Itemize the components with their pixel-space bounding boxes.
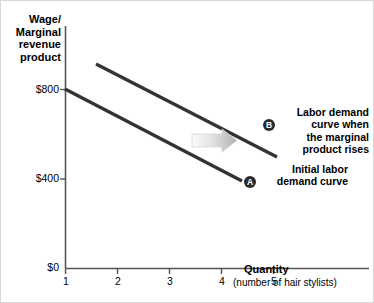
callout-a-text: Initial labor demand curve bbox=[260, 163, 348, 188]
demand-curve-b bbox=[96, 64, 277, 157]
x-tick-label-4: 4 bbox=[214, 275, 230, 287]
callout-b-text: Labor demand curve when the marginal pro… bbox=[277, 106, 369, 156]
x-tick-label-3: 3 bbox=[162, 275, 178, 287]
x-tick-label-1: 1 bbox=[58, 275, 74, 287]
y-axis-title: Wage/ Marginal revenue product bbox=[7, 13, 61, 63]
callout-curve-b: B Labor demand curve when the marginal p… bbox=[263, 118, 371, 156]
badge-a: A bbox=[244, 176, 256, 188]
y-tick-label-400: $400 bbox=[17, 172, 59, 184]
y-tick-label-0: $0 bbox=[17, 261, 59, 273]
badge-b: B bbox=[263, 119, 275, 131]
y-tick-label-800: $800 bbox=[17, 83, 59, 95]
economics-chart-figure: Wage/ Marginal revenue product $800 $400… bbox=[0, 0, 374, 303]
x-axis-subtitle: (number of hair stylists) bbox=[233, 277, 337, 288]
callout-curve-a: A Initial labor demand curve bbox=[244, 175, 364, 188]
x-axis-title: Quantity bbox=[244, 263, 289, 275]
x-tick-label-2: 2 bbox=[110, 275, 126, 287]
